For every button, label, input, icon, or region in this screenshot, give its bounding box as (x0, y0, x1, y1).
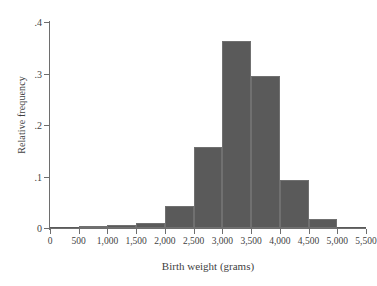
x-tick-label: 3,000 (212, 236, 233, 246)
x-tick-label: 500 (72, 236, 86, 246)
x-tick-mark (136, 229, 137, 234)
histogram-bar (107, 225, 136, 228)
x-tick-label: 0 (48, 236, 53, 246)
x-tick-mark (79, 229, 80, 234)
x-tick-mark (309, 229, 310, 234)
x-tick-mark (366, 229, 367, 234)
x-tick-mark (50, 229, 51, 234)
histogram-bar (337, 227, 366, 228)
x-axis-line (49, 228, 366, 229)
x-axis-title: Birth weight (grams) (50, 260, 366, 272)
x-tick-label: 2,500 (183, 236, 204, 246)
histogram-bar (309, 219, 338, 228)
histogram-bar (136, 223, 165, 228)
x-tick-label: 5,500 (355, 236, 376, 246)
histogram-bar (50, 227, 79, 228)
y-tick-mark (44, 177, 50, 178)
x-tick-label: 4,500 (298, 236, 319, 246)
x-tick-mark (280, 229, 281, 234)
x-tick-label: 1,500 (125, 236, 146, 246)
x-tick-label: 2,000 (154, 236, 175, 246)
y-tick-label: .4 (10, 17, 42, 28)
x-tick-label: 5,000 (327, 236, 348, 246)
histogram-bar (222, 41, 251, 228)
histogram-bar (251, 76, 280, 228)
y-axis-title: Relative frequency (10, 0, 32, 230)
x-tick-label: 4,000 (269, 236, 290, 246)
y-tick-label: .3 (10, 68, 42, 79)
x-tick-mark (251, 229, 252, 234)
histogram-bar (194, 147, 223, 228)
x-tick-label: 1,000 (97, 236, 118, 246)
x-tick-mark (337, 229, 338, 234)
x-tick-mark (222, 229, 223, 234)
y-tick-label: 0 (10, 223, 42, 234)
x-tick-mark (194, 229, 195, 234)
histogram-bar (165, 206, 194, 228)
histogram-bar (280, 180, 309, 228)
y-tick-mark (44, 22, 50, 23)
x-tick-mark (107, 229, 108, 234)
y-tick-label: .2 (10, 120, 42, 131)
x-tick-mark (165, 229, 166, 234)
y-tick-mark (44, 74, 50, 75)
y-tick-mark (44, 125, 50, 126)
x-tick-label: 3,500 (240, 236, 261, 246)
histogram-bar (79, 226, 108, 228)
y-tick-label: .1 (10, 171, 42, 182)
